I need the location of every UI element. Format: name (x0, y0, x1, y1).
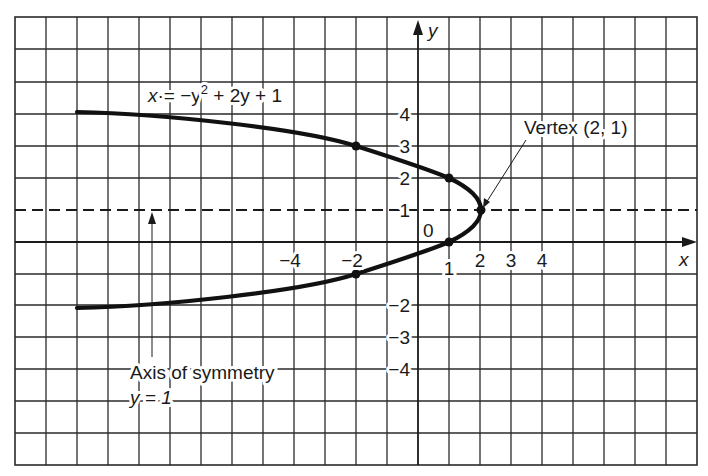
vertex-label: Vertex (2, 1) (524, 117, 628, 138)
vertex-leader (483, 140, 526, 208)
y-axis-arrow-icon (413, 20, 423, 35)
axis-of-symmetry-equation: y = 1 (128, 387, 172, 408)
origin-label: 0 (423, 220, 434, 241)
y-axis-label: y (426, 20, 439, 41)
axis-of-symmetry-label: Axis of symmetry (130, 362, 275, 383)
y-tick-2: 2 (399, 168, 410, 189)
point-1-2 (445, 174, 454, 183)
parabola-graph: x·= −y2 + 2y + 1 Vertex (2, 1) Axis of s… (0, 0, 708, 476)
point-m2-3 (352, 142, 361, 151)
x-tick-3: 3 (506, 250, 517, 271)
y-tick-m4: −4 (388, 359, 410, 380)
x-tick-2: 2 (475, 250, 486, 271)
point-1-0 (445, 238, 454, 247)
x-tick-1: 1 (444, 258, 455, 279)
y-tick-3: 3 (399, 136, 410, 157)
vertex-arrow-icon (483, 198, 490, 208)
y-tick-1: 1 (399, 200, 410, 221)
axis-symmetry-leader (148, 212, 156, 357)
grid (15, 17, 697, 465)
x-tick-m2: −2 (341, 250, 363, 271)
x-tick-4: 4 (537, 250, 548, 271)
axis-symmetry-arrow-icon (148, 212, 156, 224)
y-tick-4: 4 (399, 104, 410, 125)
x-tick-m4: −4 (279, 250, 301, 271)
y-tick-m2: −2 (388, 295, 410, 316)
x-axis-label: x (678, 249, 690, 270)
y-tick-m3: −3 (388, 327, 410, 348)
equation-label: x·= −y2 + 2y + 1 (147, 82, 282, 106)
x-axis-arrow-icon (682, 237, 697, 247)
